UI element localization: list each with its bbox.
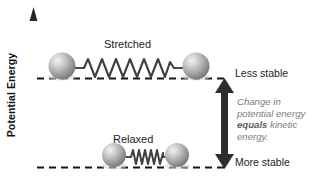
caption-line-1: Change in — [237, 96, 281, 107]
y-axis-label: Potential Energy — [6, 52, 17, 138]
stretched-coil — [84, 59, 174, 77]
relaxed-spring-assembly — [101, 143, 190, 169]
caption-emphasis: equals — [237, 119, 267, 130]
spring-ball-left-lower — [102, 143, 126, 167]
energy-change-arrow — [215, 78, 234, 169]
stretched-spring-assembly — [48, 53, 210, 81]
y-axis — [30, 7, 38, 178]
label-less-stable: Less stable — [235, 68, 288, 79]
spring-ball-right-upper — [183, 53, 210, 80]
energy-change-caption: Change in potential energy equals kineti… — [237, 96, 315, 142]
spring-ball-left-upper — [49, 53, 76, 80]
relaxed-coil — [131, 150, 163, 164]
label-more-stable: More stable — [235, 157, 290, 168]
spring-ball-right-lower — [165, 143, 189, 167]
label-stretched: Stretched — [104, 39, 151, 50]
diagram-canvas: Potential Energy Stretched Relaxed Less … — [0, 0, 315, 189]
caption-line-2: potential energy — [237, 108, 305, 119]
label-relaxed: Relaxed — [113, 134, 153, 145]
